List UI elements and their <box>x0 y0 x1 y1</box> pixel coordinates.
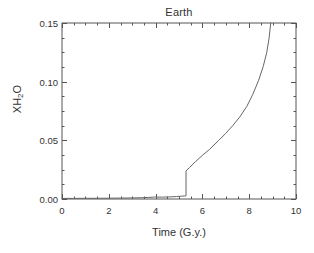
y-tick-label: 0.00 <box>24 194 58 205</box>
x-tick-label: 10 <box>291 205 302 216</box>
x-axis-label: Time (G.y.) <box>62 226 296 238</box>
y-axis-label-subscript: 2 <box>16 93 25 97</box>
y-axis-label: XH2O <box>11 54 25 144</box>
x-tick-label: 0 <box>59 205 64 216</box>
chart-figure: Earth 0.000.050.100.15 0246810 XH2O Time… <box>0 0 314 253</box>
y-axis-label-tail: O <box>11 85 23 94</box>
plot-background <box>62 23 296 199</box>
x-tick-label: 8 <box>247 205 252 216</box>
y-tick-label: 0.05 <box>24 135 58 146</box>
x-tick-label: 6 <box>200 205 205 216</box>
y-axis-label-base: XH <box>11 98 23 113</box>
x-tick-label: 2 <box>106 205 111 216</box>
y-tick-label: 0.15 <box>24 18 58 29</box>
x-tick-label: 4 <box>153 205 158 216</box>
y-tick-label: 0.10 <box>24 76 58 87</box>
